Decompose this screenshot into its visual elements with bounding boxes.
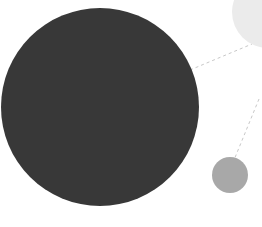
bubble-diagram-svg bbox=[0, 0, 262, 227]
bubble-diagram-canvas bbox=[0, 0, 262, 227]
primary-node-circle[interactable] bbox=[1, 8, 199, 206]
tertiary-node-circle[interactable] bbox=[212, 157, 248, 193]
